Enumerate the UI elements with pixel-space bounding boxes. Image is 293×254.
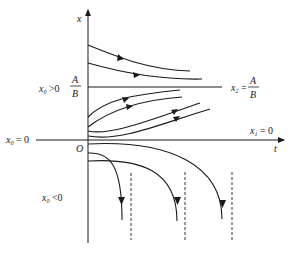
svg-text:x1 = 0: x1 = 0 [249,125,273,137]
x-axis-label: x [76,13,82,24]
svg-text:x0 >0: x0 >0 [38,83,60,95]
direction-arrow-icon [126,104,133,110]
svg-text:x0 <0: x0 <0 [41,192,63,204]
solution-curve [88,153,122,220]
solution-curve [88,144,222,219]
t-axis-label: t [274,143,277,154]
x0-positive-label: x0 >0 [38,83,60,95]
curves-between-equilibria [88,90,210,137]
solution-curves-diagram: x t O x0 >0 A B x2 = A B x0 = 0 x1 = 0 x… [0,0,293,254]
svg-text:B: B [250,89,256,100]
ab-fraction-label: A B [70,74,81,99]
direction-arrow-icon [133,72,140,78]
svg-text:A: A [71,74,79,85]
solution-curve [88,90,180,117]
solution-curve [88,161,177,221]
direction-arrow-icon [117,54,124,61]
x0-zero-label: x0 = 0 [5,134,29,146]
svg-text:x0 = 0: x0 = 0 [5,134,29,146]
direction-arrow-icon [118,197,125,205]
solution-curve [88,109,210,137]
x1-equilibrium-label: x1 = 0 [249,125,273,137]
direction-arrow-icon [171,109,178,115]
direction-arrow-icon [122,97,129,103]
svg-text:B: B [72,88,78,99]
curves-below-zero [88,144,226,221]
x2-equilibrium-label: x2 = A B [230,75,259,100]
origin-label: O [76,143,83,154]
svg-text:A: A [249,75,257,86]
svg-text:x2 =: x2 = [230,82,247,94]
asymptotes [131,172,232,240]
curves-above-equilibrium [88,45,202,79]
x0-negative-label: x0 <0 [41,192,63,204]
